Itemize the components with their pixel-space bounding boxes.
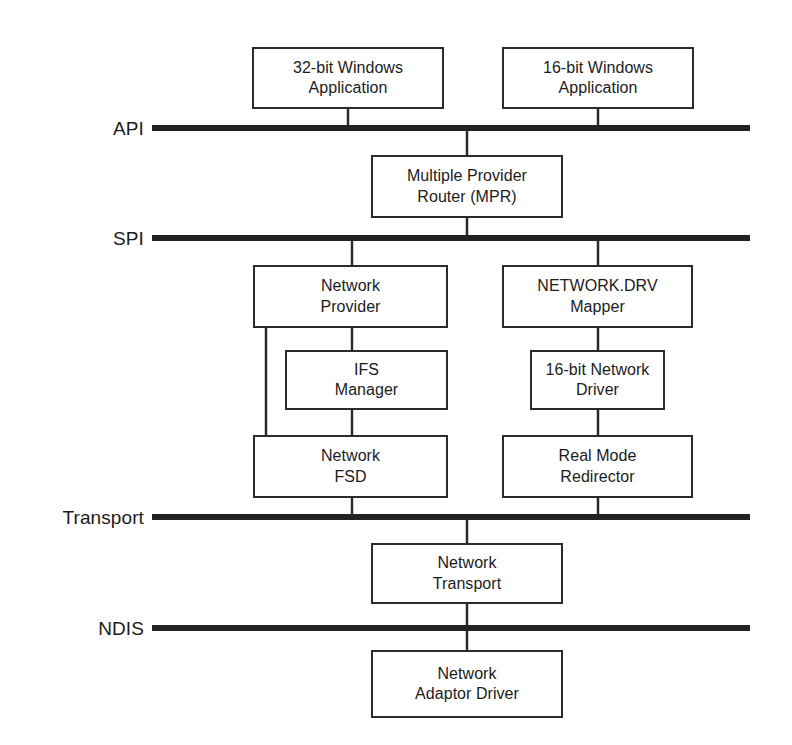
node-label-mpr-line-1: Multiple Provider — [407, 166, 527, 186]
node-label-mpr-line-2: Router (MPR) — [417, 187, 516, 207]
node-label-network-adaptor-line-1: Network — [437, 664, 496, 684]
node-box-real-mode-redir: Real ModeRedirector — [502, 435, 693, 498]
node-label-real-mode-redir-line-1: Real Mode — [559, 446, 637, 466]
node-box-network-adaptor: NetworkAdaptor Driver — [371, 650, 563, 718]
node-label-network-fsd-line-2: FSD — [334, 467, 366, 487]
node-label-network-transport-line-2: Transport — [433, 574, 501, 594]
node-label-network-fsd-line-1: Network — [321, 446, 380, 466]
node-label-network-transport-line-1: Network — [437, 553, 496, 573]
layer-label-api: API — [0, 119, 144, 138]
node-box-ifs-manager: IFSManager — [285, 350, 448, 410]
node-label-ifs-manager-line-2: Manager — [335, 380, 399, 400]
node-label-network-provider-line-2: Provider — [321, 297, 381, 317]
node-label-real-mode-redir-line-2: Redirector — [560, 467, 634, 487]
node-label-network-provider-line-1: Network — [321, 276, 380, 296]
node-label-net-driver-16-line-2: Driver — [576, 380, 619, 400]
node-label-app32-line-1: 32-bit Windows — [293, 58, 403, 78]
node-box-network-provider: NetworkProvider — [253, 265, 448, 328]
node-label-app16-line-2: Application — [559, 78, 638, 98]
node-label-app16-line-1: 16-bit Windows — [543, 58, 653, 78]
node-box-netdrv-mapper: NETWORK.DRVMapper — [502, 265, 693, 328]
node-box-network-transport: NetworkTransport — [371, 543, 563, 604]
node-label-app32-line-2: Application — [309, 78, 388, 98]
node-box-app16: 16-bit WindowsApplication — [502, 47, 694, 109]
node-box-app32: 32-bit WindowsApplication — [252, 47, 444, 109]
layer-label-transport: Transport — [0, 508, 144, 527]
layer-label-ndis: NDIS — [0, 619, 144, 638]
architecture-diagram: APISPITransportNDIS 32-bit WindowsApplic… — [0, 0, 792, 745]
node-box-network-fsd: NetworkFSD — [253, 435, 448, 498]
node-label-netdrv-mapper-line-1: NETWORK.DRV — [537, 276, 657, 296]
layer-label-spi: SPI — [0, 229, 144, 248]
node-box-net-driver-16: 16-bit NetworkDriver — [530, 350, 665, 410]
node-box-mpr: Multiple ProviderRouter (MPR) — [371, 155, 563, 218]
node-label-net-driver-16-line-1: 16-bit Network — [546, 360, 650, 380]
node-label-network-adaptor-line-2: Adaptor Driver — [415, 684, 519, 704]
node-label-ifs-manager-line-1: IFS — [354, 360, 379, 380]
node-label-netdrv-mapper-line-2: Mapper — [570, 297, 625, 317]
